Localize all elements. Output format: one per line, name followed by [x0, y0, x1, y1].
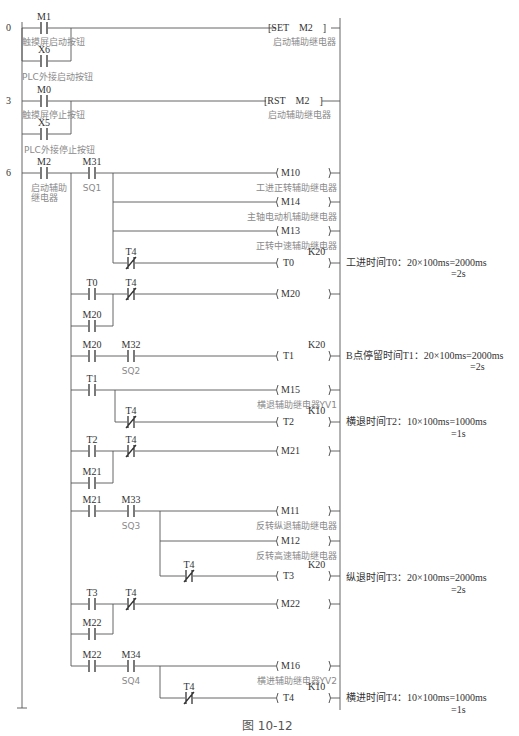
coil-T4: T4: [283, 692, 294, 703]
contact-X6-comment: PLC外接启动按钮: [22, 72, 93, 82]
rst-instruction-comment: 启动辅助继电器: [268, 110, 331, 120]
note-T0-line2: =2s: [451, 268, 466, 280]
coil-M13: M13: [281, 225, 300, 236]
contact-X5-label: X5: [38, 117, 50, 128]
coil-M15: M15: [281, 384, 300, 395]
note-T2-line1: 横退时间T2：10×100ms=1000ms: [346, 416, 487, 428]
contact-M0-label: M0: [37, 84, 51, 95]
contact-T3-label: T3: [86, 587, 97, 598]
contact-T4-nc-label: T4: [125, 434, 136, 445]
coil-M10: M10: [281, 167, 300, 178]
coil-M16: M16: [281, 660, 300, 671]
note-T3-line1: 纵退时间T3：20×100ms=2000ms: [346, 572, 487, 584]
coil-M11-comment: 反转纵退辅助继电器: [256, 521, 337, 531]
contact-T4-nc-label: T4: [125, 246, 136, 257]
coil-T3: T3: [283, 570, 294, 581]
contact-M32-label: M32: [122, 339, 141, 350]
contact-M20-label: M20: [83, 309, 102, 320]
note-T1-line2: =2s: [470, 361, 485, 373]
contact-M2-comment: 启动辅助继电器: [31, 183, 67, 203]
contact-M22-label: M22: [83, 649, 102, 660]
contact-M33-label: M33: [122, 494, 141, 505]
contact-T4-nc-label: T4: [183, 681, 194, 692]
timer-T1-preset: K20: [308, 339, 325, 350]
coil-T2: T2: [283, 416, 294, 427]
figure-caption: 图 10-12: [242, 716, 293, 733]
contact-T2-label: T2: [86, 434, 97, 445]
contact-M33-comment: SQ3: [122, 521, 141, 531]
contact-M21-label: M21: [83, 494, 102, 505]
rst-instruction: [RST M2 ]: [264, 95, 323, 106]
contact-M34-label: M34: [122, 649, 141, 660]
timer-T4-preset: K10: [308, 681, 325, 692]
timer-T2-preset: K10: [308, 405, 325, 416]
step-number-6: 6: [6, 167, 11, 178]
contact-M34-comment: SQ4: [122, 676, 141, 686]
contact-T4-nc-label: T4: [125, 277, 136, 288]
contact-M22-label: M22: [83, 617, 102, 628]
set-instruction-comment: 启动辅助继电器: [273, 37, 336, 47]
coil-M22: M22: [281, 598, 300, 609]
coil-M10-comment: 工进正转辅助继电器: [256, 183, 337, 193]
set-instruction: [SET M2 ]: [268, 22, 326, 33]
contact-T1-label: T1: [86, 373, 97, 384]
contact-M21-label: M21: [83, 466, 102, 477]
note-T4-line2: =1s: [451, 704, 466, 716]
contact-T4-nc-label: T4: [183, 559, 194, 570]
contact-X5-comment: PLC外接停止按钮: [24, 145, 95, 155]
coil-M12: M12: [281, 535, 300, 546]
coil-M21: M21: [281, 445, 300, 456]
step-number-0: 0: [6, 22, 11, 33]
contact-T4-nc-label: T4: [125, 405, 136, 416]
coil-M14-comment: 主轴电动机辅助继电器: [247, 212, 337, 222]
timer-T0-preset: K20: [308, 246, 325, 257]
coil-M11: M11: [281, 505, 300, 516]
nc-contact-icons: [126, 257, 194, 704]
contact-M31-label: M31: [83, 156, 102, 167]
contact-M0-comment: 触摸屏停止按钮: [22, 110, 85, 120]
contact-M2-label: M2: [37, 156, 51, 167]
contact-M31-comment: SQ1: [83, 183, 102, 193]
note-T2-line2: =1s: [451, 428, 466, 440]
contact-M1-label: M1: [37, 11, 51, 22]
contact-M1-comment: 触摸屏启动按钮: [22, 37, 85, 47]
contact-M32-comment: SQ2: [122, 366, 141, 376]
timer-T3-preset: K20: [308, 559, 325, 570]
note-T3-line2: =2s: [451, 584, 466, 596]
note-T4-line1: 横进时间T4：10×100ms=1000ms: [346, 692, 487, 704]
contact-T0-label: T0: [86, 277, 97, 288]
step-number-3: 3: [6, 95, 11, 106]
contact-M20-label: M20: [83, 339, 102, 350]
coil-M14: M14: [281, 196, 300, 207]
coil-T1: T1: [283, 350, 294, 361]
contact-T4-nc-label: T4: [125, 587, 136, 598]
coil-T0: T0: [283, 257, 294, 268]
contact-X6-label: X6: [38, 44, 50, 55]
coil-M20: M20: [281, 288, 300, 299]
